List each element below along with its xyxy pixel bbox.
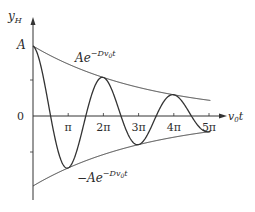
x-tick-label: 4π xyxy=(167,121,181,134)
damped-oscillation-diagram: yH A 0 v0t Ae−Dv0t −Ae−Dv0t π2π3π4π5π xyxy=(0,0,255,212)
y-axis-label: yH xyxy=(7,9,23,25)
x-tick-labels: π2π3π4π5π xyxy=(65,121,217,134)
lower-envelope-label: −Ae−Dv0t xyxy=(77,169,128,185)
upper-envelope-curve xyxy=(33,46,210,100)
zero-label: 0 xyxy=(17,110,24,123)
x-tick-label: π xyxy=(65,121,72,134)
damped-oscillation-curve xyxy=(33,46,210,168)
y-axis-arrow-icon xyxy=(31,17,36,25)
x-tick-label: 3π xyxy=(131,121,145,134)
x-axis-label: v0t xyxy=(228,110,244,124)
x-axis-arrow-icon xyxy=(219,114,227,119)
upper-envelope-label: Ae−Dv0t xyxy=(74,49,116,65)
x-tick-label: 2π xyxy=(96,121,110,134)
x-tick-label: 5π xyxy=(202,121,216,134)
amplitude-label: A xyxy=(16,38,26,52)
